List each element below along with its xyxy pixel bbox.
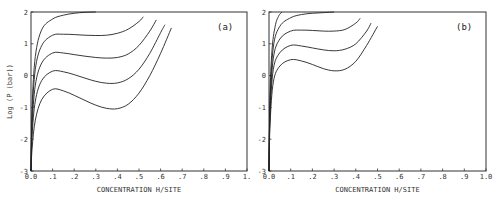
isotherm-curve [269, 23, 371, 171]
x-tick-label: .3 [92, 173, 100, 181]
x-tick-label: .2 [308, 173, 316, 181]
isotherm-curve [31, 12, 96, 171]
figure-root: 0.0.1.2.3.4.5.6.7.8.91.-3-2-1012CONCENTR… [0, 0, 501, 206]
x-axis-title: CONCENTRATION H/SITE [97, 186, 181, 194]
y-tick-label: -1 [20, 104, 28, 112]
x-tick-label: .6 [395, 173, 403, 181]
y-tick-label: -3 [20, 168, 28, 176]
y-tick-label: 2 [262, 9, 266, 17]
x-tick-label: .9 [221, 173, 229, 181]
isotherm-curve [31, 25, 165, 171]
y-tick-label: 1 [24, 40, 28, 48]
x-tick-label: .4 [352, 173, 360, 181]
y-tick-label: -1 [258, 104, 266, 112]
x-tick-label: 1. [243, 173, 251, 181]
plot-frame [31, 12, 247, 171]
x-tick-label: .5 [135, 173, 143, 181]
y-tick-label: 0 [24, 72, 28, 80]
panel-b: 0.0.1.2.3.4.5.6.7.8.91.0-3-2-1012CONCENT… [258, 9, 493, 195]
x-tick-label: .7 [417, 173, 425, 181]
y-tick-label: -2 [258, 136, 266, 144]
y-tick-label: 1 [262, 40, 266, 48]
x-tick-label: .2 [70, 173, 78, 181]
isotherm-curve [31, 17, 143, 171]
y-tick-label: -3 [258, 168, 266, 176]
x-tick-label: .3 [330, 173, 338, 181]
x-tick-label: 1.0 [480, 173, 493, 181]
y-axis-title: Log (P (bar)) [6, 64, 14, 119]
x-tick-label: .4 [113, 173, 121, 181]
panel-a: 0.0.1.2.3.4.5.6.7.8.91.-3-2-1012CONCENTR… [6, 9, 251, 195]
x-axis-title: CONCENTRATION H/SITE [335, 186, 419, 194]
y-tick-label: 0 [262, 72, 266, 80]
panel-label: (a) [217, 22, 233, 32]
x-tick-label: .1 [286, 173, 294, 181]
x-tick-label: .7 [178, 173, 186, 181]
x-tick-label: .8 [438, 173, 446, 181]
panel-label: (b) [456, 22, 472, 32]
isotherm-curve [269, 12, 334, 171]
x-tick-label: .1 [48, 173, 56, 181]
plot-frame [269, 12, 486, 171]
y-tick-label: -2 [20, 136, 28, 144]
y-tick-label: 2 [24, 9, 28, 17]
x-tick-label: .8 [200, 173, 208, 181]
isotherm-curve [31, 28, 171, 171]
x-tick-label: .6 [156, 173, 164, 181]
x-tick-label: .9 [460, 173, 468, 181]
x-tick-label: .5 [373, 173, 381, 181]
isotherm-curve [269, 18, 360, 171]
